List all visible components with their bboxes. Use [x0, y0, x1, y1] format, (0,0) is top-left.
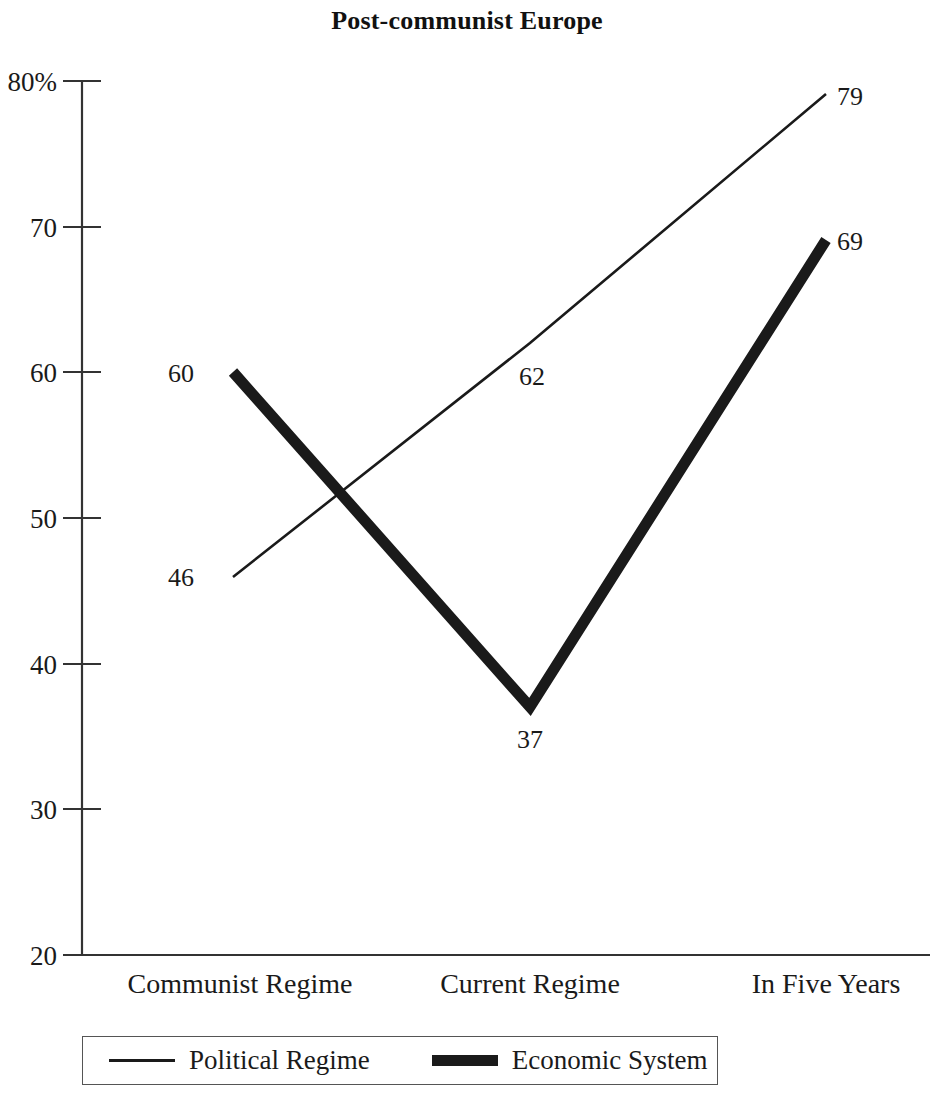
data-label-political-five-years: 79 — [837, 82, 863, 111]
legend-item-political-regime: Political Regime — [109, 1037, 370, 1084]
data-label-political-current: 62 — [519, 362, 545, 391]
y-tick-label-50: 50 — [30, 504, 57, 534]
data-label-economic-current: 37 — [517, 725, 543, 754]
data-label-economic-five-years: 69 — [837, 227, 863, 256]
chart-plot-area: 80% 70 60 50 40 30 20 46 62 79 60 37 69 … — [0, 0, 934, 1105]
y-tick-label-40: 40 — [30, 650, 57, 680]
legend-thick-line-icon — [432, 1055, 498, 1066]
legend-label-political-regime: Political Regime — [189, 1045, 370, 1076]
series-line-economic-system — [233, 240, 826, 707]
y-tick-label-80: 80% — [8, 67, 58, 97]
x-category-label-in-five-years: In Five Years — [752, 968, 901, 999]
x-category-label-communist-regime: Communist Regime — [128, 968, 353, 999]
legend-label-economic-system: Economic System — [512, 1045, 708, 1076]
y-tick-label-20: 20 — [30, 941, 57, 971]
chart-container: Post-communist Europe 80% 70 60 50 40 30… — [0, 0, 934, 1105]
chart-legend: Political Regime Economic System — [82, 1036, 718, 1085]
y-tick-label-60: 60 — [30, 358, 57, 388]
series-line-political-regime — [233, 94, 826, 577]
legend-item-economic-system: Economic System — [432, 1037, 708, 1084]
data-label-political-communist: 46 — [168, 563, 194, 592]
legend-thin-line-icon — [109, 1059, 175, 1062]
x-category-label-current-regime: Current Regime — [440, 968, 620, 999]
y-tick-label-30: 30 — [30, 795, 57, 825]
y-tick-label-70: 70 — [30, 213, 57, 243]
data-label-economic-communist: 60 — [168, 359, 194, 388]
